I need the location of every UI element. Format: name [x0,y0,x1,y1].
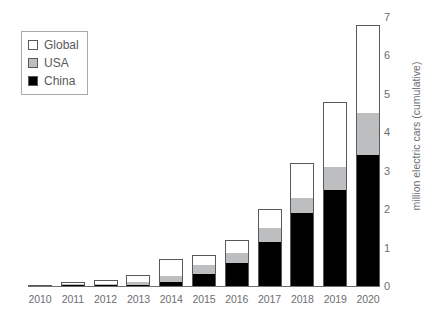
x-tick-label: 2018 [290,291,314,309]
bar-segment-china [225,263,249,286]
x-tick-label: 2016 [225,291,249,309]
y-axis-title: million electric cars (cumulative) [410,56,422,216]
bar-segment-global [323,102,347,167]
legend-swatch-usa-icon [28,58,38,68]
legend-swatch-china-icon [28,76,38,86]
x-tick-label: 2020 [356,291,380,309]
bar-segment-china [258,242,282,286]
bar-group[interactable] [225,17,249,286]
x-tick-label: 2010 [28,291,52,309]
bar-group[interactable] [192,17,216,286]
bar-segment-usa [356,113,380,155]
x-axis-tick-labels: 2010201120122013201420152016201720182019… [28,291,380,309]
bar-group[interactable] [94,17,118,286]
bar-group[interactable] [290,17,314,286]
bar-segment-global [356,25,380,113]
bar-segment-china [192,274,216,286]
chart-legend: Global USA China [21,31,88,95]
bar-segment-global [159,259,183,276]
legend-swatch-global-icon [28,40,38,50]
legend-label-global: Global [44,38,79,52]
x-tick-label: 2015 [192,291,216,309]
bar-segment-global [225,240,249,253]
x-tick-label: 2011 [61,291,85,309]
x-tick-label: 2014 [159,291,183,309]
bar-segment-usa [192,265,216,275]
bar-group[interactable] [159,17,183,286]
bar-segment-usa [258,228,282,241]
bar-segment-china [290,213,314,286]
bar-segment-china [323,190,347,286]
bar-segment-usa [323,167,347,190]
legend-item-china: China [28,72,79,90]
bar-segment-usa [225,253,249,263]
x-tick-label: 2017 [258,291,282,309]
bar-segment-usa [290,198,314,213]
legend-label-usa: USA [44,56,69,70]
legend-item-global: Global [28,36,79,54]
legend-item-usa: USA [28,54,79,72]
bar-segment-china [356,155,380,286]
bar-group[interactable] [356,17,380,286]
bar-group[interactable] [258,17,282,286]
x-tick-label: 2019 [323,291,347,309]
bar-group[interactable] [323,17,347,286]
bar-segment-global [258,209,282,228]
y-axis-title-wrap: million electric cars (cumulative) [398,0,418,316]
bar-segment-global [290,163,314,198]
legend-label-china: China [44,74,75,88]
bar-segment-global [192,255,216,265]
x-tick-label: 2012 [94,291,118,309]
x-tick-label: 2013 [126,291,150,309]
chart-container: 2010201120122013201420152016201720182019… [0,0,430,316]
x-axis-line [28,286,380,287]
bar-group[interactable] [126,17,150,286]
bar-segment-global [126,275,150,283]
